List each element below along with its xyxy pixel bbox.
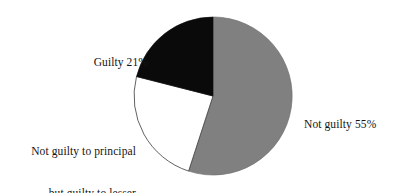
slice-label-not-guilty: Not guilty 55% xyxy=(304,89,376,159)
slice-label-not-guilty-principal-line1: Not guilty to principal xyxy=(5,144,136,158)
slice-label-not-guilty-line1: Not guilty 55% xyxy=(304,117,376,131)
slice-label-guilty-line1: Guilty 21% xyxy=(45,55,148,69)
slice-label-not-guilty-principal-line2: but guilty to lesser xyxy=(5,186,136,193)
slice-label-guilty: Guilty 21% xyxy=(45,27,148,97)
pie-chart: Not guilty 55% Guilty 21% Not guilty to … xyxy=(0,0,393,193)
slice-label-not-guilty-principal: Not guilty to principal but guilty to le… xyxy=(5,116,136,193)
